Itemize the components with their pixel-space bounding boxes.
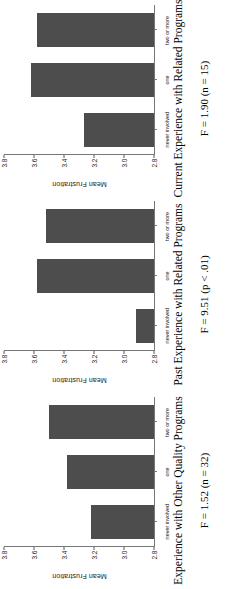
- cat-slot: never involved: [155, 105, 173, 154]
- panel-title: Current Experience with Related Programs: [172, 0, 184, 198]
- x-tick-label: two or more: [164, 408, 170, 437]
- bar: [46, 209, 154, 243]
- x-tick-mark: [154, 225, 157, 226]
- y-tick-mark: [154, 156, 155, 159]
- y-tick-label: 2.8: [151, 159, 158, 168]
- cat-slot: two or more: [155, 398, 173, 447]
- bar: [31, 63, 154, 97]
- panel-statistic-annotation: F = 9.51 (p < .01): [198, 255, 210, 333]
- y-tick-label: 3.4: [61, 551, 68, 560]
- chart-panel-current-experience: Mean Frustration 2.8 3.0 3.2 3.4 3.6 3.8: [4, 2, 232, 195]
- panel-title: Past Experience with Related Programs: [172, 203, 184, 385]
- bar-slot: [4, 202, 154, 251]
- bar: [84, 113, 155, 147]
- y-axis-ticks: 2.8 3.0 3.2 3.4 3.6 3.8: [4, 548, 154, 570]
- y-tick-label: 3.2: [91, 159, 98, 168]
- figure-panels: Mean Frustration 2.8 3.0 3.2 3.4 3.6 3.8: [0, 0, 232, 589]
- y-tick-label: 3.2: [91, 551, 98, 560]
- y-axis-line: [4, 351, 154, 352]
- y-tick-mark: [34, 352, 35, 355]
- y-tick-label: 3.8: [1, 159, 8, 168]
- bar: [49, 405, 154, 439]
- bar: [136, 309, 154, 343]
- y-axis-line: [4, 155, 154, 156]
- x-tick-label: one: [164, 271, 170, 280]
- chart-panel-past-experience: Mean Frustration 2.8 3.0 3.2 3.4 3.6 3.8: [4, 198, 232, 391]
- y-tick-mark: [34, 548, 35, 551]
- plot-area: Mean Frustration 2.8 3.0 3.2 3.4 3.6 3.8: [4, 398, 168, 584]
- y-tick-label: 3.6: [31, 551, 38, 560]
- bar: [37, 259, 154, 293]
- panel-title: Experience with Other Quality Programs: [172, 396, 184, 584]
- x-tick-label: two or more: [164, 212, 170, 241]
- bar-slot: [4, 497, 154, 546]
- y-tick-label: 3.8: [1, 551, 8, 560]
- y-tick-mark: [4, 156, 5, 159]
- x-tick-label: never involved: [164, 112, 170, 147]
- x-tick-label: one: [164, 75, 170, 84]
- bar-slot: [4, 251, 154, 300]
- panel-statistic-annotation: F = 1.52 (n = 32): [198, 453, 210, 528]
- y-tick-mark: [4, 548, 5, 551]
- y-axis-title-label: Mean Frustration: [52, 573, 107, 580]
- y-tick-label: 2.8: [151, 551, 158, 560]
- y-tick-mark: [94, 548, 95, 551]
- bar-group: [4, 202, 154, 351]
- bar: [67, 455, 154, 489]
- cat-slot: never involved: [155, 497, 173, 546]
- y-tick-label: 3.6: [31, 159, 38, 168]
- y-tick-mark: [154, 548, 155, 551]
- bar-slot: [4, 105, 154, 154]
- x-tick-mark: [154, 521, 157, 522]
- y-tick-mark: [34, 156, 35, 159]
- y-axis-ticks: 2.8 3.0 3.2 3.4 3.6 3.8: [4, 156, 154, 178]
- y-tick-mark: [124, 156, 125, 159]
- bar-slot: [4, 398, 154, 447]
- x-axis-category-labels: never involved one two or more: [155, 202, 168, 351]
- bar: [37, 13, 154, 47]
- bar: [91, 505, 154, 539]
- x-tick-label: never involved: [164, 504, 170, 539]
- x-tick-mark: [154, 79, 157, 80]
- cat-slot: one: [155, 55, 173, 104]
- chart-panel-other-quality-programs: Mean Frustration 2.8 3.0 3.2 3.4 3.6 3.8: [4, 394, 232, 587]
- x-axis-category-labels: never involved one two or more: [155, 6, 168, 155]
- plot-area: Mean Frustration 2.8 3.0 3.2 3.4 3.6 3.8: [4, 202, 168, 388]
- y-tick-mark: [4, 352, 5, 355]
- bar-group: [4, 398, 154, 547]
- cat-slot: never involved: [155, 301, 173, 350]
- y-tick-label: 3.6: [31, 355, 38, 364]
- x-tick-mark: [154, 129, 157, 130]
- rotated-figure-wrapper: Mean Frustration 2.8 3.0 3.2 3.4 3.6 3.8: [0, 0, 232, 589]
- cat-slot: two or more: [155, 202, 173, 251]
- x-tick-label: never involved: [164, 308, 170, 343]
- x-tick-mark: [154, 29, 157, 30]
- x-tick-mark: [154, 275, 157, 276]
- y-tick-label: 3.4: [61, 159, 68, 168]
- x-tick-mark: [154, 325, 157, 326]
- panel-statistic-annotation: F = 1.90 (n = 15): [198, 61, 210, 136]
- y-tick-mark: [94, 156, 95, 159]
- x-tick-mark: [154, 421, 157, 422]
- y-axis-title-label: Mean Frustration: [52, 181, 107, 188]
- x-axis-category-labels: never involved one two or more: [155, 398, 168, 547]
- y-tick-mark: [154, 352, 155, 355]
- y-tick-label: 3.0: [121, 355, 128, 364]
- y-tick-label: 3.0: [121, 159, 128, 168]
- cat-slot: one: [155, 447, 173, 496]
- y-tick-mark: [124, 352, 125, 355]
- y-tick-label: 3.8: [1, 355, 8, 364]
- y-tick-label: 3.0: [121, 551, 128, 560]
- y-axis-ticks: 2.8 3.0 3.2 3.4 3.6 3.8: [4, 352, 154, 374]
- x-tick-mark: [154, 471, 157, 472]
- cat-slot: one: [155, 251, 173, 300]
- y-axis-title: Mean Frustration: [4, 178, 154, 192]
- y-axis-title: Mean Frustration: [4, 374, 154, 388]
- x-tick-label: one: [164, 467, 170, 476]
- x-tick-label: two or more: [164, 16, 170, 45]
- y-tick-mark: [94, 352, 95, 355]
- bar-group: [4, 6, 154, 155]
- y-tick-label: 3.4: [61, 355, 68, 364]
- y-tick-label: 3.2: [91, 355, 98, 364]
- bar-slot: [4, 6, 154, 55]
